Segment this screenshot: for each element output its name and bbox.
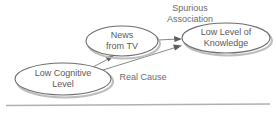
edge-label-real-cause: Real Cause [119, 72, 166, 82]
node-low-level-of-knowledge[interactable]: Low Level of Knowledge [182, 23, 272, 56]
edge-label-spurious-association-line1: Spurious [172, 3, 208, 13]
node-low-cognitive-level-label-line1: Low Cognitive [35, 68, 92, 78]
bottom-divider-rule [6, 104, 270, 106]
node-low-level-of-knowledge-label-line1: Low Level of [201, 27, 252, 37]
edge-news-to-knowledge [158, 36, 182, 42]
node-news-from-tv-label-line1: News [111, 30, 134, 40]
node-news-from-tv[interactable]: News from TV [86, 26, 160, 59]
node-low-cognitive-level-label-line2: Level [52, 79, 74, 89]
node-news-from-tv-label-line2: from TV [106, 41, 138, 51]
node-low-cognitive-level[interactable]: Low Cognitive Level [15, 63, 113, 98]
edge-news-to-knowledge-arrowhead [174, 36, 182, 42]
node-low-level-of-knowledge-label-line2: Knowledge [204, 38, 249, 48]
edge-label-spurious-association-line2: Association [167, 14, 213, 24]
causal-diagram: Low Cognitive Level News from TV Low Lev… [0, 0, 276, 115]
edge-cognitive-to-knowledge-arrowhead [173, 45, 182, 51]
edge-label-spurious-association: Spurious Association [167, 3, 213, 24]
edge-label-real-cause-line1: Real Cause [119, 72, 166, 82]
diagram-canvas: Low Cognitive Level News from TV Low Lev… [0, 0, 276, 115]
